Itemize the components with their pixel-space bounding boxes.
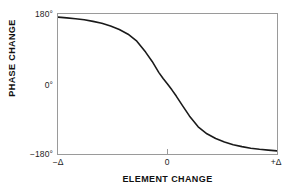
plot-area xyxy=(57,13,278,155)
x-tick-mark-zero xyxy=(167,149,168,155)
y-axis-title: PHASE CHANGE xyxy=(7,0,17,118)
phase-change-chart: 180° 0° −180° −Δ 0 +Δ ELEMENT CHANGE PHA… xyxy=(0,0,293,195)
x-axis-title: ELEMENT CHANGE xyxy=(57,174,278,184)
x-tick-label-center: 0 xyxy=(153,157,181,167)
x-tick-label-left: −Δ xyxy=(44,157,72,167)
x-tick-label-right: +Δ xyxy=(262,157,290,167)
phase-curve-svg xyxy=(58,14,277,154)
phase-curve-line xyxy=(58,17,277,151)
